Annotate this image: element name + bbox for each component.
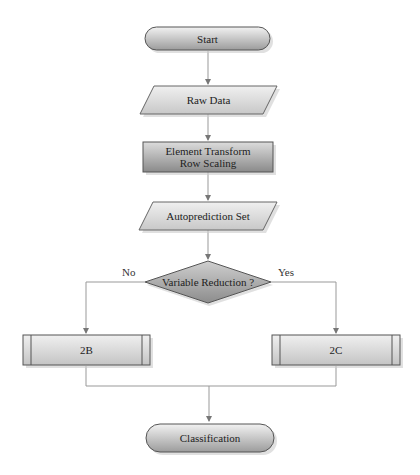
raw-data-label: Raw Data: [140, 86, 277, 114]
edge-label-yes: Yes: [278, 266, 294, 278]
classification-label: Classification: [146, 424, 274, 452]
start-label: Start: [145, 27, 270, 50]
2b-label: 2B: [23, 335, 150, 365]
flowchart-canvas: [0, 0, 420, 475]
element-transform-line1: Element Transform: [165, 145, 250, 157]
2c-label: 2C: [272, 335, 400, 365]
element-transform-line2: Row Scaling: [180, 157, 237, 169]
autoprediction-label: Autoprediction Set: [139, 202, 277, 230]
element-transform-label: Element Transform Row Scaling: [143, 142, 273, 172]
edge-label-no: No: [122, 266, 135, 278]
decision-label: Variable Reduction ?: [145, 270, 271, 294]
